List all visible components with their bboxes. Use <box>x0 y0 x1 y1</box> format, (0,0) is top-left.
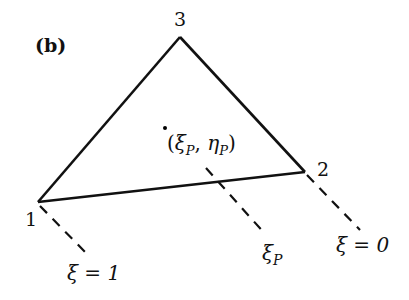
vertex-label-3: 3 <box>174 8 186 30</box>
edge-1-2 <box>38 172 305 202</box>
vertex-label-2: 2 <box>317 158 329 180</box>
label-xi-equals-0: ξ = 0 <box>336 233 389 257</box>
triangle-diagram: (b) 3 1 2 (ξP, ηP) ξ = 1 ξP ξ = 0 <box>0 0 409 300</box>
edge-1-3 <box>38 37 180 202</box>
point-p-dot <box>163 126 167 130</box>
dashed-line-xi-equals-1 <box>40 206 90 257</box>
label-xi-p: ξP <box>262 241 283 268</box>
vertex-label-1: 1 <box>25 208 37 230</box>
panel-label: (b) <box>35 34 66 56</box>
point-p-label: (ξP, ηP) <box>167 131 236 158</box>
label-xi-equals-1: ξ = 1 <box>67 261 120 285</box>
dashed-line-xi-equals-0 <box>307 175 360 230</box>
